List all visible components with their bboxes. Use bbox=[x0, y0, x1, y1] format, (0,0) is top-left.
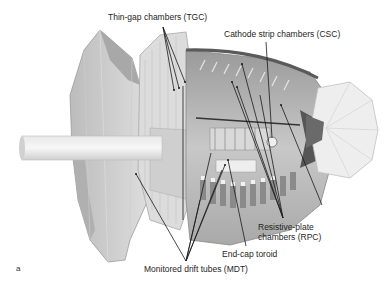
panel-letter: a bbox=[16, 264, 20, 273]
tgc-wheel bbox=[138, 32, 190, 230]
label-mdt: Monitored drift tubes (MDT) bbox=[144, 264, 248, 274]
label-rpc-line1: Resistive-plate bbox=[258, 222, 314, 232]
label-rpc-line2: chambers (RPC) bbox=[258, 232, 321, 242]
beam-pipe bbox=[19, 136, 162, 160]
label-tgc: Thin-gap chambers (TGC) bbox=[108, 12, 207, 22]
detector-diagram: Thin-gap chambers (TGC) Cathode strip ch… bbox=[0, 0, 391, 290]
label-endcap-toroid: End-cap toroid bbox=[222, 249, 277, 259]
detector-illustration bbox=[0, 0, 391, 290]
barrel bbox=[186, 50, 335, 245]
right-endcap-wheel bbox=[306, 82, 378, 178]
label-csc: Cathode strip chambers (CSC) bbox=[224, 29, 340, 39]
